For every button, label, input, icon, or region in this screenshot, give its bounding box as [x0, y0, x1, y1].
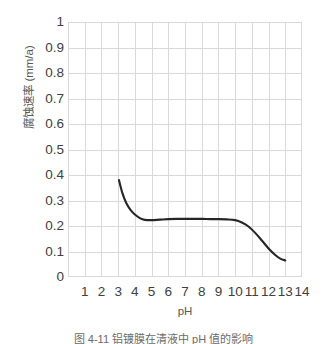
series-path [119, 180, 285, 260]
y-axis-tick-label: 0.6 [30, 116, 64, 132]
y-axis-tick-label: 0 [30, 269, 64, 285]
y-axis-tick-label: 0.8 [30, 65, 64, 81]
data-series-line [68, 22, 302, 277]
y-axis-tick-labels: 10.90.80.70.60.50.40.30.20.10 [30, 22, 64, 277]
plot-area [68, 22, 302, 277]
y-axis-tick-label: 0.5 [30, 142, 64, 158]
y-axis-tick-label: 0.1 [30, 244, 64, 260]
y-axis-tick-label: 0.9 [30, 40, 64, 56]
x-axis-tick-label: 14 [288, 283, 316, 301]
x-axis-title: pH [68, 303, 302, 319]
chart-figure: 腐蚀速率 (mm/a) 10.90.80.70.60.50.40.30.20.1… [0, 0, 327, 344]
figure-caption: 图 4-11 铝镀膜在清液中 pH 值的影响 [0, 331, 327, 344]
y-axis-tick-label: 1 [30, 14, 64, 30]
y-axis-tick-label: 0.3 [30, 193, 64, 209]
y-axis-tick-label: 0.2 [30, 218, 64, 234]
y-axis-tick-label: 0.4 [30, 167, 64, 183]
x-axis-tick-labels: 1234567891011121314 [68, 283, 302, 301]
y-axis-tick-label: 0.7 [30, 91, 64, 107]
